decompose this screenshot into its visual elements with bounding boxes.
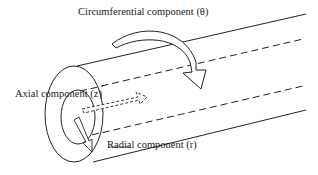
pipe-bottom-wall xyxy=(93,110,306,162)
radial-label: Radial component (r) xyxy=(107,140,197,151)
pipe-outer-end-ellipse xyxy=(45,66,103,162)
circumferential-label: Circumferential component (θ) xyxy=(78,7,208,18)
axial-label: Axial component (z) xyxy=(15,89,102,100)
pipe-inner-bottom-dashed xyxy=(92,86,303,135)
